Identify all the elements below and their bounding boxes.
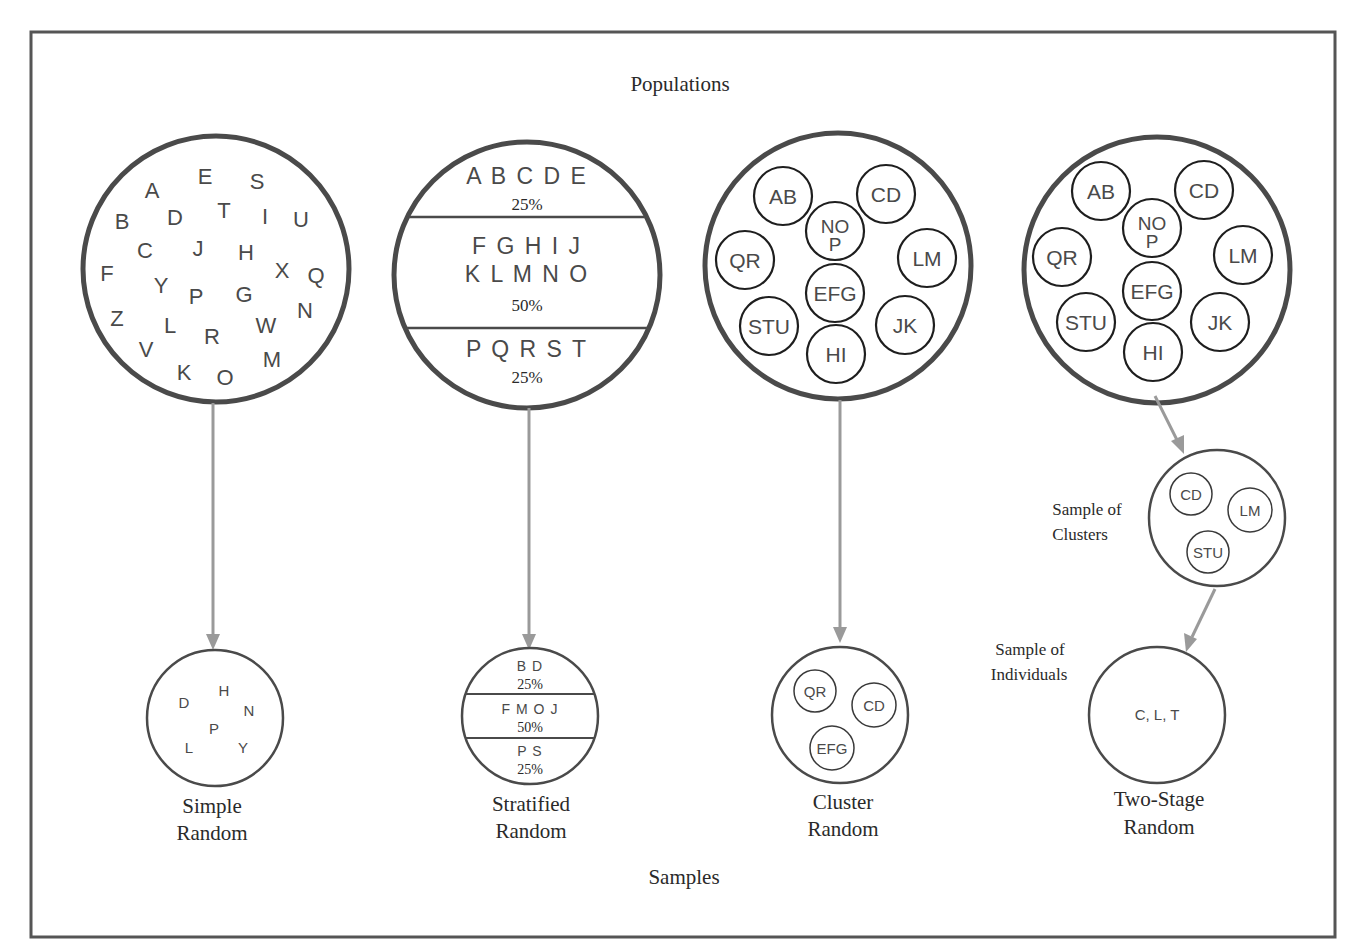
letter: L bbox=[164, 313, 176, 338]
cluster-label: HI bbox=[1143, 341, 1164, 364]
stratum-1-letters: A B C D E bbox=[466, 163, 588, 189]
cluster-label: HI bbox=[826, 343, 847, 366]
sample-cluster-label: CD bbox=[1180, 486, 1202, 503]
letter: S bbox=[250, 169, 265, 194]
sample-stratum-2-pct: 50% bbox=[517, 720, 543, 735]
cluster-label: EFG bbox=[1130, 280, 1173, 303]
cluster-label: CD bbox=[1189, 179, 1219, 202]
letter: X bbox=[275, 258, 290, 283]
two-stage-random-column: AB CD NOP QR LM EFG STU JK HI CD LM STU bbox=[991, 137, 1290, 839]
sample-cluster-label: STU bbox=[1193, 544, 1223, 561]
arrowhead-icon bbox=[833, 627, 847, 643]
stratum-2-pct: 50% bbox=[511, 296, 542, 315]
letter: N bbox=[297, 298, 313, 323]
samples-heading: Samples bbox=[648, 865, 719, 889]
sample-of-clusters-label-line-1: Sample of bbox=[1052, 500, 1122, 519]
letter: D bbox=[167, 205, 183, 230]
stratum-1-pct: 25% bbox=[511, 195, 542, 214]
sample-stratum-1-letters: B D bbox=[517, 658, 543, 674]
letter: P bbox=[189, 284, 204, 309]
stratum-3-pct: 25% bbox=[511, 368, 542, 387]
sample-stratum-2-letters: F M O J bbox=[502, 701, 559, 717]
sampling-methods-diagram: Populations Samples A E S B D T I U C J … bbox=[0, 0, 1354, 948]
cluster-label: STU bbox=[1065, 311, 1107, 334]
cluster-label-line-2: Random bbox=[807, 817, 878, 841]
sample-stratum-1-pct: 25% bbox=[517, 677, 543, 692]
stratified-label-line-1: Stratified bbox=[492, 792, 571, 816]
cluster-label-line-1: Cluster bbox=[813, 790, 874, 814]
letter: F bbox=[100, 261, 113, 286]
sample-individuals-text: C, L, T bbox=[1135, 706, 1180, 723]
letter: K bbox=[177, 360, 192, 385]
letter: B bbox=[115, 209, 130, 234]
letter: T bbox=[217, 198, 230, 223]
sample-cluster-label: LM bbox=[1240, 502, 1261, 519]
letter: U bbox=[293, 207, 309, 232]
sample-stratum-3-pct: 25% bbox=[517, 762, 543, 777]
sample-of-individuals-label-line-1: Sample of bbox=[995, 640, 1065, 659]
two-stage-arrow-2 bbox=[1192, 589, 1215, 637]
letter: Z bbox=[110, 306, 123, 331]
sample-cluster-label: CD bbox=[863, 697, 885, 714]
cluster-label: AB bbox=[1087, 180, 1115, 203]
cluster-label: EFG bbox=[813, 282, 856, 305]
letter: O bbox=[216, 365, 233, 390]
simple-label-line-1: Simple bbox=[182, 794, 242, 818]
letter: E bbox=[198, 164, 213, 189]
sample-stratum-3-letters: P S bbox=[517, 743, 542, 759]
letter: Y bbox=[154, 273, 169, 298]
stratum-2-letters-line-1: F G H I J bbox=[472, 233, 582, 259]
stratum-2-letters-line-2: K L M N O bbox=[465, 261, 590, 287]
stratified-random-column: A B C D E 25% F G H I J K L M N O 50% P … bbox=[390, 142, 670, 843]
cluster-label: LM bbox=[1228, 244, 1257, 267]
letter: C bbox=[137, 238, 153, 263]
letter: L bbox=[185, 739, 193, 756]
cluster-label: QR bbox=[729, 249, 761, 272]
two-stage-label-line-1: Two-Stage bbox=[1114, 787, 1205, 811]
sample-cluster-label: EFG bbox=[817, 740, 848, 757]
two-stage-label-line-2: Random bbox=[1123, 815, 1194, 839]
cluster-label: LM bbox=[912, 247, 941, 270]
sample-of-individuals-label-line-2: Individuals bbox=[991, 665, 1068, 684]
populations-heading: Populations bbox=[630, 72, 729, 96]
arrowhead-icon bbox=[206, 634, 220, 650]
stratum-3-letters: P Q R S T bbox=[466, 336, 588, 362]
cluster-random-column: AB CD NOP QR LM EFG STU JK HI QR CD EFG … bbox=[705, 133, 971, 841]
cluster-label: JK bbox=[893, 314, 918, 337]
arrowhead-icon bbox=[1184, 633, 1197, 652]
sample-cluster-label: QR bbox=[804, 683, 827, 700]
letter: D bbox=[179, 694, 190, 711]
sample-of-clusters-label-line-2: Clusters bbox=[1052, 525, 1108, 544]
simple-sample-circle bbox=[147, 650, 283, 786]
letter: H bbox=[219, 682, 230, 699]
letter: P bbox=[209, 720, 219, 737]
letter: M bbox=[263, 347, 281, 372]
letter: G bbox=[235, 282, 252, 307]
stratified-label-line-2: Random bbox=[495, 819, 566, 843]
letter: W bbox=[256, 313, 277, 338]
simple-random-column: A E S B D T I U C J H F X Q Y P G Z L W … bbox=[83, 136, 349, 845]
cluster-label: AB bbox=[769, 185, 797, 208]
letter: J bbox=[193, 236, 204, 261]
letter: H bbox=[238, 240, 254, 265]
cluster-label: STU bbox=[748, 315, 790, 338]
letter: Y bbox=[238, 739, 248, 756]
letter: A bbox=[145, 178, 160, 203]
letter: R bbox=[204, 324, 220, 349]
cluster-label: QR bbox=[1046, 246, 1078, 269]
letter: Q bbox=[307, 263, 324, 288]
letter: V bbox=[139, 337, 154, 362]
cluster-label: CD bbox=[871, 183, 901, 206]
letter: I bbox=[262, 204, 268, 229]
letter: N bbox=[244, 702, 255, 719]
simple-label-line-2: Random bbox=[176, 821, 247, 845]
cluster-label: JK bbox=[1208, 311, 1233, 334]
